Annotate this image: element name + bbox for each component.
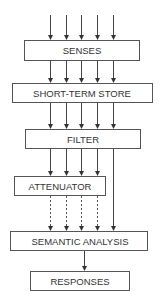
arrowhead-icon — [64, 78, 69, 83]
filter-to-attenuator-arrow — [79, 149, 84, 176]
filter-label: FILTER — [67, 134, 99, 145]
short-term-store-label: SHORT-TERM STORE — [33, 88, 131, 99]
attenuator-to-semantic-arrow — [95, 196, 100, 231]
short-term-store-node: SHORT-TERM STORE — [13, 84, 153, 103]
arrowhead-icon — [64, 171, 69, 176]
arrowhead-icon — [95, 226, 100, 231]
arrowhead-icon — [48, 226, 53, 231]
sts-to-filter-arrow — [95, 103, 100, 129]
responses-node: RESPONSES — [31, 272, 130, 291]
sts-to-filter-arrow — [79, 103, 84, 129]
senses-node: SENSES — [25, 41, 140, 61]
input-arrow — [95, 15, 100, 40]
senses-to-sts-arrow — [64, 61, 69, 83]
arrowhead-icon — [79, 226, 84, 231]
arrowhead-icon — [79, 124, 84, 129]
senses-to-sts-arrow — [95, 61, 100, 83]
senses-to-sts-arrow — [48, 61, 53, 83]
arrowhead-icon — [48, 78, 53, 83]
sts-to-filter-arrow — [48, 103, 53, 129]
arrowhead-icon — [82, 266, 87, 271]
sts-to-filter-arrow — [111, 103, 116, 129]
attenuator-node: ATTENUATOR — [15, 177, 106, 196]
filter-to-attenuator-arrow — [64, 149, 69, 176]
arrowhead-icon — [48, 124, 53, 129]
arrowhead-icon — [64, 226, 69, 231]
input-arrow — [64, 15, 69, 40]
responses-label: RESPONSES — [50, 276, 109, 287]
semantic-analysis-label: SEMANTIC ANALYSIS — [32, 236, 129, 247]
filter-to-semantic-arrow — [111, 149, 116, 231]
arrowhead-icon — [111, 35, 116, 40]
arrowhead-icon — [95, 78, 100, 83]
arrowhead-icon — [111, 78, 116, 83]
arrowhead-icon — [79, 171, 84, 176]
arrowhead-icon — [111, 226, 116, 231]
filter-node: FILTER — [26, 130, 141, 149]
filter-to-attenuator-arrow — [95, 149, 100, 176]
arrowhead-icon — [95, 124, 100, 129]
attenuator-to-semantic-arrow — [48, 196, 53, 231]
arrowhead-icon — [95, 35, 100, 40]
sts-to-filter-arrow — [64, 103, 69, 129]
attention-flow-diagram: SENSES SHORT-TERM STORE FILTER ATTENUATO… — [0, 0, 159, 308]
arrowhead-icon — [48, 171, 53, 176]
input-arrow — [111, 15, 116, 40]
arrowhead-icon — [79, 35, 84, 40]
arrowhead-icon — [79, 78, 84, 83]
senses-to-sts-arrow — [111, 61, 116, 83]
input-arrow — [79, 15, 84, 40]
filter-to-attenuator-arrow — [48, 149, 53, 176]
arrowhead-icon — [64, 35, 69, 40]
input-arrow — [48, 15, 53, 40]
attenuator-label: ATTENUATOR — [29, 181, 92, 192]
arrowhead-icon — [64, 124, 69, 129]
semantic-analysis-node: SEMANTIC ANALYSIS — [11, 232, 148, 251]
arrowhead-icon — [48, 35, 53, 40]
attenuator-to-semantic-arrow — [64, 196, 69, 231]
senses-label: SENSES — [63, 45, 102, 56]
senses-to-sts-arrow — [79, 61, 84, 83]
arrowhead-icon — [111, 124, 116, 129]
arrowhead-icon — [95, 171, 100, 176]
attenuator-to-semantic-arrow — [79, 196, 84, 231]
semantic-to-responses-arrow — [82, 251, 87, 271]
